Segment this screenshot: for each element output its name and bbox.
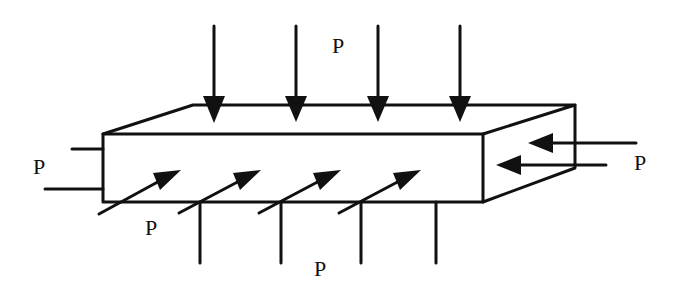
label-left-p: P xyxy=(33,154,45,179)
front-face xyxy=(103,134,483,202)
pressure-block-diagram: P P P P P xyxy=(0,0,682,295)
right-pressure-arrows xyxy=(496,133,636,175)
label-front-p: P xyxy=(145,215,157,240)
label-bottom-p: P xyxy=(314,256,326,281)
front-pressure-arrows xyxy=(99,170,421,214)
block xyxy=(103,105,575,202)
left-pressure-lines xyxy=(45,149,103,189)
label-top-p: P xyxy=(332,33,344,58)
top-face xyxy=(103,105,575,134)
label-right-p: P xyxy=(634,150,646,175)
bottom-pressure-lines xyxy=(200,202,436,263)
